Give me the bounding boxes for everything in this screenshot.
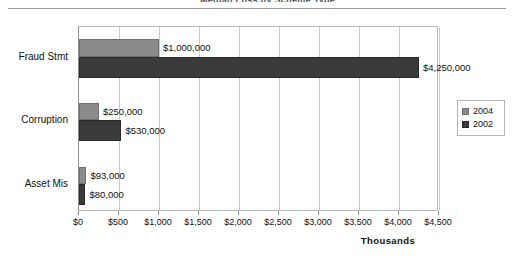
legend-swatch-icon-2002 [462, 121, 469, 128]
bar-value-label: $80,000 [89, 190, 123, 200]
axis-tick-label: $2,000 [224, 218, 252, 227]
axis-tick-label: $4,000 [384, 218, 412, 227]
axis-tick [238, 211, 239, 215]
axis-tick-label: $4,500 [424, 218, 452, 227]
axis-tick [78, 211, 79, 215]
legend-item-2004[interactable]: 2004 [462, 105, 501, 118]
gridline [199, 27, 200, 210]
axis-tick-label: $0 [73, 218, 83, 227]
gridline [319, 27, 320, 210]
gridline [359, 27, 360, 210]
legend: 2004 2002 [457, 100, 505, 136]
category-label-fraud-stmt: Fraud Stmt [19, 52, 68, 62]
axis-tick-label: $500 [108, 218, 128, 227]
legend-label-2002: 2002 [473, 120, 493, 129]
axis-tick [398, 211, 399, 215]
axis-tick [198, 211, 199, 215]
legend-item-2002[interactable]: 2002 [462, 118, 501, 131]
axis-title: Thousands [338, 235, 438, 246]
bar-value-label: $530,000 [125, 126, 165, 136]
category-label-corruption: Corruption [21, 115, 68, 125]
axis-tick-label: $2,500 [264, 218, 292, 227]
axis-tick [438, 211, 439, 215]
bar-value-label: $4,250,000 [423, 63, 471, 73]
bar-value-label: $1,000,000 [163, 43, 211, 53]
axis-tick [358, 211, 359, 215]
axis-tick-label: $3,000 [304, 218, 332, 227]
axis-tick [158, 211, 159, 215]
gridline [159, 27, 160, 210]
axis-tick-label: $1,500 [184, 218, 212, 227]
legend-label-2004: 2004 [473, 107, 493, 116]
gridline [239, 27, 240, 210]
bar-asset-mis-2004[interactable] [79, 167, 86, 184]
bar-corruption-2002[interactable] [79, 120, 121, 141]
axis-tick [278, 211, 279, 215]
gridline [279, 27, 280, 210]
bar-fraud-stmt-2004[interactable] [79, 39, 159, 57]
bar-asset-mis-2002[interactable] [79, 184, 85, 205]
plot-area: $1,000,000$4,250,000$250,000$530,000$93,… [78, 26, 438, 211]
header-divider [8, 8, 506, 9]
bar-corruption-2004[interactable] [79, 103, 99, 120]
chart-title-clipped: Median Loss by Scheme Type [200, 0, 360, 2]
chart-figure: Median Loss by Scheme Type $1,000,000$4,… [0, 0, 514, 260]
axis-tick-label: $1,000 [144, 218, 172, 227]
bar-fraud-stmt-2002[interactable] [79, 57, 419, 78]
gridline [439, 27, 440, 210]
bar-value-label: $93,000 [90, 171, 124, 181]
axis-tick [318, 211, 319, 215]
axis-tick [118, 211, 119, 215]
legend-swatch-icon-2004 [462, 108, 469, 115]
gridline [399, 27, 400, 210]
bar-value-label: $250,000 [103, 107, 143, 117]
category-label-asset-mis: Asset Mis [25, 179, 68, 189]
axis-tick-label: $3,500 [344, 218, 372, 227]
